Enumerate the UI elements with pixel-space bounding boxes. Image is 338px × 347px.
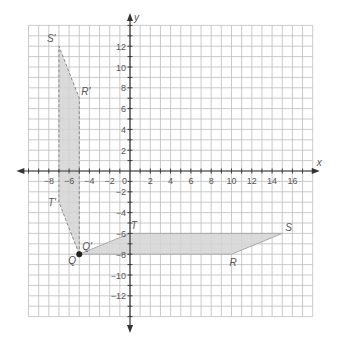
y-axis-arrow-up-icon: [127, 13, 133, 21]
y-axis-label: y: [133, 12, 140, 23]
y-tick-label: 12: [116, 42, 126, 52]
y-tick-label: 8: [121, 83, 126, 93]
x-tick-label: −8: [44, 176, 54, 186]
vertex-label: T': [48, 197, 57, 208]
x-tick-label: 4: [168, 176, 173, 186]
y-tick-label: −10: [111, 271, 126, 281]
vertex-label: R': [81, 86, 91, 97]
y-tick-label: −2: [116, 187, 126, 197]
y-tick-label: −4: [116, 208, 126, 218]
vertex-label: R: [230, 257, 237, 268]
vertex-label: Q': [82, 241, 93, 252]
y-tick-label: −6: [116, 229, 126, 239]
x-tick-label: 2: [148, 176, 153, 186]
vertex-label: T: [131, 220, 138, 231]
point-marker-icon: [76, 251, 82, 257]
x-tick-label: 14: [267, 176, 277, 186]
y-tick-label: 6: [121, 104, 126, 114]
x-axis-arrow-left-icon: [16, 168, 24, 174]
y-axis-arrow-down-icon: [127, 325, 133, 333]
y-tick-label: 2: [121, 146, 126, 156]
y-tick-label: 10: [116, 63, 126, 73]
x-tick-label: 8: [209, 176, 214, 186]
vertex-label: S': [47, 33, 57, 44]
x-tick-label: 16: [287, 176, 297, 186]
y-tick-label: 4: [121, 125, 126, 135]
coordinate-plane: −8−6−4−224681012141612108642−2−4−6−8−10−…: [0, 0, 338, 347]
x-tick-label: 6: [188, 176, 193, 186]
vertex-label: S: [285, 222, 292, 233]
x-axis-label: x: [316, 157, 323, 168]
x-tick-label: −2: [105, 176, 115, 186]
y-tick-label: −8: [116, 250, 126, 260]
vertex-label: Q: [68, 255, 76, 266]
labels-layer: −8−6−4−224681012141612108642−2−4−6−8−10−…: [44, 12, 323, 301]
x-tick-label: 12: [247, 176, 257, 186]
origin-label: 0: [122, 176, 127, 186]
x-tick-label: 10: [226, 176, 236, 186]
x-tick-label: −6: [64, 176, 74, 186]
x-tick-label: −4: [84, 176, 94, 186]
y-tick-label: −12: [111, 291, 126, 301]
